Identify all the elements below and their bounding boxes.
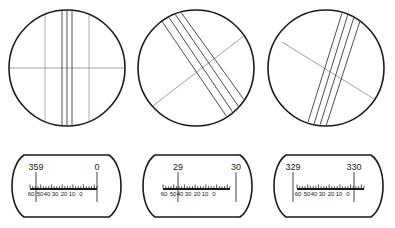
micrometer-readout-left-scale-label: 60 (28, 191, 35, 197)
micrometer-readout-right: 3293306050403020100 (274, 155, 383, 217)
reticle-view-right-field-circle (268, 10, 384, 126)
reticle-view-right-index-diagonal-line (282, 42, 374, 99)
reticle-view-right-graduations (282, 13, 374, 126)
micrometer-readout-left-scale-label: 20 (61, 191, 68, 197)
micrometer-readout-left: 35906050403020100 (12, 155, 121, 217)
micrometer-readout-center: 29306050403020100 (143, 155, 252, 217)
micrometer-readout-right-scale-label: 10 (336, 191, 343, 197)
micrometer-readout-right-right-value: 330 (346, 162, 361, 172)
optical-micrometer-figure: 3590605040302010029306050403020100329330… (0, 0, 395, 228)
micrometer-readout-center-scale-label: 60 (161, 191, 168, 197)
micrometer-readout-center-scale-label: 10 (202, 191, 209, 197)
micrometer-readout-center-left-value: 29 (173, 162, 183, 172)
micrometer-readout-right-scale-label: 0 (346, 191, 350, 197)
micrometer-readout-left-right-value: 0 (94, 162, 99, 172)
reticle-view-center-graduation-line-3 (173, 11, 243, 113)
micrometer-readout-right-scale-label: 20 (328, 191, 335, 197)
reticle-view-right-graduation-line-2 (314, 14, 348, 124)
reticle-view-center-index-diagonal-line (150, 32, 249, 108)
micrometer-readout-left-left-value: 359 (28, 162, 43, 172)
reticle-view-left (9, 10, 125, 126)
micrometer-readout-left-scale-label: 30 (52, 191, 59, 197)
reticle-view-center-graduation-line-2 (166, 13, 236, 117)
micrometer-readout-center-right-value: 30 (231, 162, 241, 172)
reticle-view-right-graduation-line-3 (320, 17, 354, 125)
reticle-view-right (268, 10, 384, 126)
micrometer-readout-center-scale-label: 30 (185, 191, 192, 197)
micrometer-readout-right-scale-label: 30 (319, 191, 326, 197)
micrometer-readout-right-left-value: 329 (285, 162, 300, 172)
micrometer-readout-left-scale-label: 10 (69, 191, 76, 197)
reticle-view-center-field-circle (138, 10, 254, 126)
reticle-view-center-graduations (150, 11, 250, 120)
micrometer-readout-center-scale-label: 20 (194, 191, 201, 197)
figure-container: 3590605040302010029306050403020100329330… (0, 0, 395, 228)
reticle-view-right-graduation-line-4 (326, 21, 360, 126)
micrometer-readout-right-scale-label: 40 (311, 191, 318, 197)
reticle-view-right-graduation-line-1 (308, 13, 342, 122)
reticle-view-center-graduation-line-1 (159, 17, 229, 120)
reticle-view-center (138, 10, 254, 126)
micrometer-readout-right-scale-label: 60 (295, 191, 302, 197)
reticle-view-center-graduation-line-4 (180, 11, 250, 108)
micrometer-readout-left-scale-label: 0 (79, 191, 83, 197)
micrometer-readout-center-scale-label: 40 (177, 191, 184, 197)
micrometer-readout-center-scale-label: 0 (212, 191, 216, 197)
micrometer-readout-left-scale-label: 40 (44, 191, 51, 197)
